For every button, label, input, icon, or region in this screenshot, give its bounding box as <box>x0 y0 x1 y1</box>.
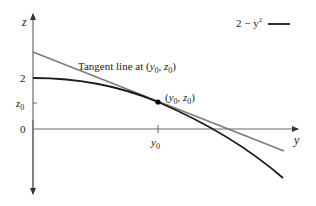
z-axis-label: z <box>21 15 27 29</box>
y-axis-label: y <box>293 133 300 147</box>
legend-label: 2 − y2 <box>236 16 263 29</box>
tangent-line-diagram: z y 2 z0 0 y0 Tangent line at (y0, z0) (… <box>0 0 316 206</box>
point-label: (y0, z0) <box>165 91 195 106</box>
tangent-line-label: Tangent line at (y0, z0) <box>78 60 176 75</box>
tick-label-2: 2 <box>20 72 26 84</box>
tangency-point <box>155 99 160 104</box>
tick-label-y0: y0 <box>150 136 160 151</box>
tick-label-0: 0 <box>20 123 26 135</box>
tick-label-z0: z0 <box>15 97 24 112</box>
legend: 2 − y2 <box>236 16 290 29</box>
